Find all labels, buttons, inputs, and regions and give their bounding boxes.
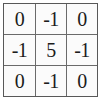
matrix-cell-r1c1: 5 [36,35,67,66]
matrix-cell-r0c2: 0 [67,4,97,35]
matrix-cell-r0c1: -1 [36,4,67,35]
matrix-cell-r2c1: -1 [36,66,67,96]
kernel-matrix-grid: 0 -1 0 -1 5 -1 0 -1 0 [3,3,98,97]
matrix-cell-r2c2: 0 [67,66,97,96]
matrix-cell-r1c0: -1 [4,35,36,66]
matrix-cell-r1c2: -1 [67,35,97,66]
matrix-cell-r0c0: 0 [4,4,36,35]
matrix-cell-r2c0: 0 [4,66,36,96]
